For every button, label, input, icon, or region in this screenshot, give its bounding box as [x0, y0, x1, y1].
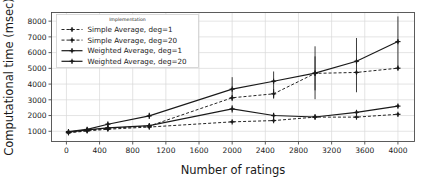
data-point	[272, 119, 275, 122]
data-point	[355, 116, 358, 119]
data-point	[107, 126, 110, 129]
data-point	[148, 124, 151, 127]
data-point	[355, 60, 358, 63]
data-point	[272, 80, 275, 83]
y-axis-label: Computational time (msec)	[2, 0, 16, 156]
x-tick-label: 3200	[322, 146, 341, 155]
x-tick-label: 2400	[256, 146, 275, 155]
y-tick-label: 5000	[27, 64, 46, 73]
data-point	[397, 113, 400, 116]
x-axis-label: Number of ratings	[181, 163, 286, 177]
legend-title: Implementation	[109, 17, 146, 22]
legend-label-2: Weighted Average, deg=1	[88, 46, 183, 55]
data-point	[148, 115, 151, 118]
data-point	[67, 130, 70, 133]
data-point	[314, 116, 317, 119]
figure-container: 0400800120016002000240028003200360040001…	[0, 0, 442, 182]
legend-sample-marker	[71, 28, 74, 31]
x-tick-label: 800	[126, 146, 141, 155]
y-tick-label: 7000	[27, 33, 46, 42]
y-tick-label: 1000	[27, 127, 46, 136]
data-point	[231, 88, 234, 91]
series-line	[68, 114, 397, 133]
x-tick-label: 400	[92, 146, 107, 155]
x-tick-label: 3600	[355, 146, 374, 155]
x-tick-label: 1600	[189, 146, 208, 155]
series-line	[68, 106, 397, 132]
y-tick-label: 8000	[27, 17, 46, 26]
y-tick-label: 4000	[27, 80, 46, 89]
data-point	[86, 128, 89, 131]
x-tick-label: 0	[64, 146, 69, 155]
chart-canvas: 0400800120016002000240028003200360040001…	[0, 0, 442, 182]
legend-sample-marker	[71, 60, 74, 63]
legend-sample-marker	[71, 49, 74, 52]
data-point	[355, 111, 358, 114]
x-tick-label: 4000	[388, 146, 407, 155]
data-point	[397, 105, 400, 108]
legend-sample-marker	[71, 39, 74, 42]
y-tick-label: 2000	[27, 111, 46, 120]
legend-label-1: Simple Average, deg=20	[88, 36, 178, 45]
y-tick-label: 6000	[27, 48, 46, 57]
data-point	[107, 123, 110, 126]
legend-label-0: Simple Average, deg=1	[88, 25, 173, 34]
x-tick-label: 2800	[289, 146, 308, 155]
data-point	[314, 72, 317, 75]
y-tick-label: 3000	[27, 96, 46, 105]
x-tick-label: 2000	[223, 146, 242, 155]
x-tick-label: 1200	[156, 146, 175, 155]
data-point	[397, 40, 400, 43]
data-point	[231, 120, 234, 123]
data-point	[272, 114, 275, 117]
legend-label-3: Weighted Average, deg=20	[88, 57, 188, 66]
data-point	[231, 108, 234, 111]
